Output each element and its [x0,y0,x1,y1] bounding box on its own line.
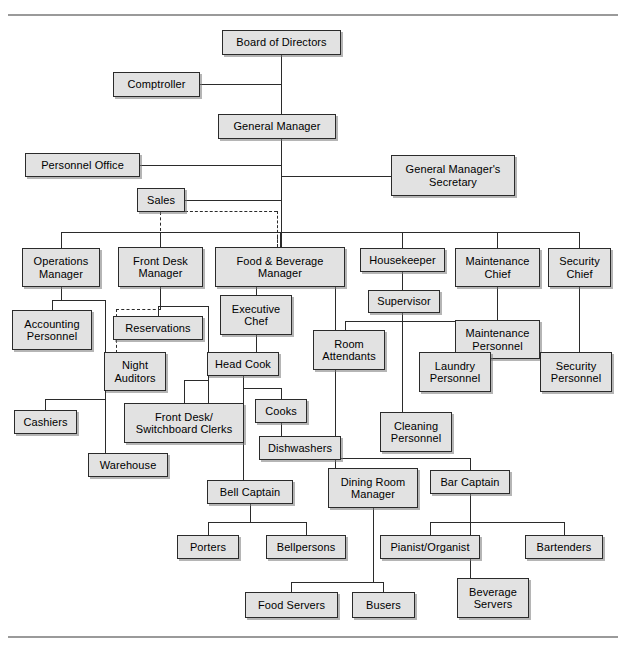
connector-bar-bus [430,522,564,523]
dashed-connector-sales-dash-fd-bus [116,309,161,310]
connector-dining-to-foodservers [291,582,292,592]
connector-execchef-down [256,335,257,352]
connector-ops-to-acct [52,300,53,310]
connector-cooks-down [281,388,282,399]
org-node-secchief[interactable]: Security Chief [548,248,611,287]
org-node-board[interactable]: Board of Directors [222,30,341,55]
connector-dining-to-busers [383,582,384,592]
org-chart-canvas: Board of DirectorsComptrollerGeneral Man… [0,0,626,647]
org-node-fdmgr[interactable]: Front Desk Manager [118,247,203,287]
connector-bar-to-pianist [430,522,431,535]
org-node-nightaud[interactable]: Night Auditors [104,352,166,391]
connector-secchief-down [579,287,580,352]
connector-bus-to-maintchief [497,232,498,248]
org-node-fbmgr[interactable]: Food & Beverage Manager [215,247,345,287]
connector-gmsec-to-trunk [281,176,391,177]
connector-fbmgr-down-left [256,287,257,295]
connector-bus-to-fbmgr [280,232,281,247]
org-node-barcaptain[interactable]: Bar Captain [430,470,510,494]
org-node-diningmgr[interactable]: Dining Room Manager [328,468,418,508]
org-node-execchef[interactable]: Executive Chef [220,295,292,335]
connector-supervisor-bus [345,321,455,322]
org-node-headcook[interactable]: Head Cook [207,352,279,376]
connector-dining-bus [291,582,383,583]
org-node-bellcaptain[interactable]: Bell Captain [207,480,293,504]
connector-bell-to-porters [208,522,209,535]
org-node-cashiers[interactable]: Cashiers [14,410,77,434]
connector-board-down-to-gm [281,55,282,114]
connector-fd-clerks-bus [184,380,208,381]
connector-comptroller-to-trunk [200,84,281,85]
connector-fd-children-bus [158,306,208,307]
connector-bell-bus [208,522,306,523]
connector-cooks-to-dish [281,423,282,436]
connector-bellcaptain-down [250,504,251,522]
connector-sup-to-roomatt [345,321,346,330]
connector-sup-to-cleaning [402,321,403,412]
bottom-divider-rule [8,636,618,638]
org-node-busers[interactable]: Busers [352,592,415,618]
top-divider-rule [8,14,618,16]
org-node-acctpers[interactable]: Accounting Personnel [12,310,92,350]
connector-headcook-bus [243,388,281,389]
connector-ops-to-cashiers [45,399,46,410]
org-node-bartenders[interactable]: Bartenders [525,535,603,559]
dashed-connector-sales-dash-fd-down [160,287,161,309]
org-node-supervisor[interactable]: Supervisor [368,290,440,313]
org-node-laundry[interactable]: Laundry Personnel [419,352,491,392]
connector-bar-to-bartenders [564,522,565,535]
org-node-bellpersons[interactable]: Bellpersons [266,535,346,559]
connector-supervisor-down [402,313,403,321]
org-node-cooks[interactable]: Cooks [255,399,307,423]
connector-managers-bus [61,232,580,233]
connector-bell-to-bellpersons [306,522,307,535]
connector-dining-down [373,508,374,582]
connector-fb-bottom-bus [335,458,470,459]
org-node-porters[interactable]: Porters [177,535,239,559]
connector-personnel-to-trunk [140,165,281,166]
org-node-opsmgr[interactable]: Operations Manager [22,248,100,287]
org-node-reservations[interactable]: Reservations [113,316,203,340]
connector-housekeeper-down [402,272,403,290]
connector-fb-to-bar [470,458,471,470]
org-node-gmsec[interactable]: General Manager's Secretary [391,155,515,196]
connector-fd-to-clerks [184,380,185,403]
org-node-dishwashers[interactable]: Dishwashers [259,436,341,460]
org-node-roomatt[interactable]: Room Attendants [313,330,385,370]
org-node-warehouse[interactable]: Warehouse [88,453,168,477]
dashed-connector-sales-dash-right [185,211,277,212]
org-node-gm[interactable]: General Manager [218,114,336,139]
connector-fbmgr-spine-right [335,287,336,458]
connector-ops-lower-bus [45,399,105,400]
connector-bus-to-housekeeper [402,232,403,248]
connector-bus-to-opsmgr [61,232,62,248]
org-node-pianist[interactable]: Pianist/Organist [380,535,480,559]
dashed-connector-sales-dash-to-fbmgr [277,236,278,247]
connector-bus-to-secchief [579,232,580,248]
org-node-secpers[interactable]: Security Personnel [540,352,612,392]
connector-ops-to-warehouse [105,422,106,453]
org-node-housekeeper[interactable]: Housekeeper [360,248,445,272]
connector-maintchief-down [497,287,498,320]
connector-opsmgr-down [61,287,62,300]
org-node-fdclerks[interactable]: Front Desk/ Switchboard Clerks [124,403,244,443]
connector-sales-to-trunk [185,200,281,201]
org-node-bevservers[interactable]: Beverage Servers [457,578,529,618]
connector-ops-children-bus [52,300,105,301]
org-node-maintchief[interactable]: Maintenance Chief [455,248,540,287]
org-node-personnel[interactable]: Personnel Office [25,153,140,177]
org-node-foodservers[interactable]: Food Servers [245,592,338,618]
org-node-comptroller[interactable]: Comptroller [113,72,200,97]
dashed-connector-sales-dash-down-left [160,212,161,247]
org-node-cleaning[interactable]: Cleaning Personnel [380,412,452,452]
org-node-sales[interactable]: Sales [137,188,185,212]
